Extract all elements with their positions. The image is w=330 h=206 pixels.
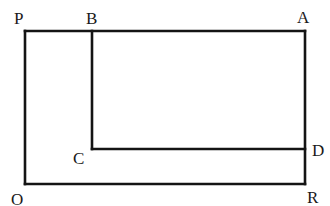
labels-group: PBACDOR <box>11 8 324 206</box>
point-label-a: A <box>297 8 310 27</box>
point-label-b: B <box>86 9 97 28</box>
point-label-r: R <box>307 188 319 206</box>
point-label-o: O <box>11 190 23 206</box>
segments-group <box>25 31 305 184</box>
point-label-c: C <box>73 149 84 168</box>
point-label-d: D <box>312 141 324 160</box>
point-label-p: P <box>14 9 23 28</box>
geometry-diagram: PBACDOR <box>0 0 330 206</box>
